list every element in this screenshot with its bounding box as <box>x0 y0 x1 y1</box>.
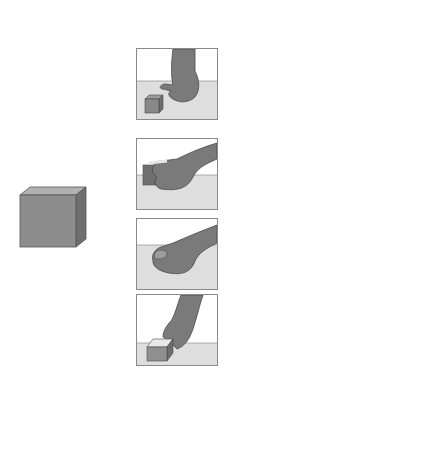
age-timeline-arrow <box>0 0 422 452</box>
